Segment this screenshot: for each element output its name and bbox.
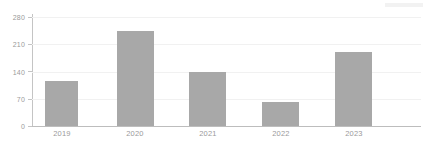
x-tick-label-2023: 2023 <box>345 130 363 138</box>
x-axis-tick-labels: 2019 2020 2021 2022 2023 <box>32 130 421 144</box>
gridline-baseline-0 <box>32 126 421 127</box>
bottom-rule <box>0 146 429 147</box>
y-tick-label-210: 210 <box>0 41 25 48</box>
y-axis-tick-labels: 280 210 140 70 0 <box>0 0 27 147</box>
bar-2022[interactable] <box>262 102 299 126</box>
y-tick-label-0: 0 <box>0 123 25 130</box>
plot-area <box>32 17 421 126</box>
x-tick-label-2019: 2019 <box>53 130 71 138</box>
x-tick-label-2022: 2022 <box>272 130 290 138</box>
x-tick-label-2021: 2021 <box>199 130 217 138</box>
y-tick-label-70: 70 <box>0 96 25 103</box>
bar-2020[interactable] <box>117 31 154 126</box>
bar-2023[interactable] <box>335 52 372 126</box>
y-tick-label-140: 140 <box>0 69 25 76</box>
x-tick-label-2020: 2020 <box>126 130 144 138</box>
y-tick-label-280: 280 <box>0 14 25 21</box>
bar-2019[interactable] <box>45 81 78 126</box>
bar-2021[interactable] <box>189 72 226 127</box>
gridline-280 <box>32 17 421 18</box>
corner-artifact <box>385 3 423 7</box>
gridline-210 <box>32 44 421 45</box>
bar-chart: 280 210 140 70 0 2019 2020 2021 2022 202… <box>0 0 429 147</box>
